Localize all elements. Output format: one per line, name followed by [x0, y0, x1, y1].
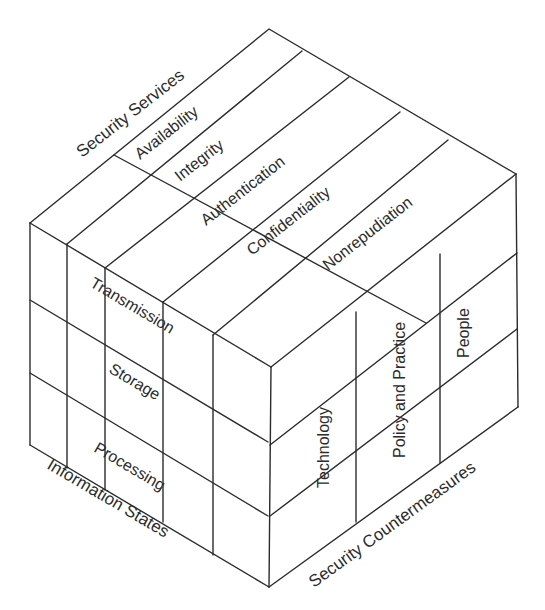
right-edge [516, 174, 518, 407]
countermeasure-label-policy-and-practice: Policy and Practice [391, 322, 408, 458]
service-divider [163, 112, 400, 302]
state-label-transmission: Transmission [87, 274, 177, 337]
top-face [30, 29, 516, 367]
axis-label-information-states: Information States [44, 455, 173, 541]
service-label-authentication: Authentication [197, 153, 287, 229]
service-label-nonrepudiation: Nonrepudiation [319, 193, 415, 273]
service-label-integrity: Integrity [171, 136, 226, 184]
mccumber-cube-diagram: Security Services Information States Sec… [0, 0, 545, 610]
countermeasure-label-technology: Technology [315, 407, 332, 488]
axis-label-security-services: Security Services [73, 65, 188, 161]
state-label-storage: Storage [106, 360, 163, 403]
service-divider [213, 140, 448, 335]
front-vertical-edge [269, 367, 271, 587]
countermeasure-label-people: People [455, 308, 472, 358]
